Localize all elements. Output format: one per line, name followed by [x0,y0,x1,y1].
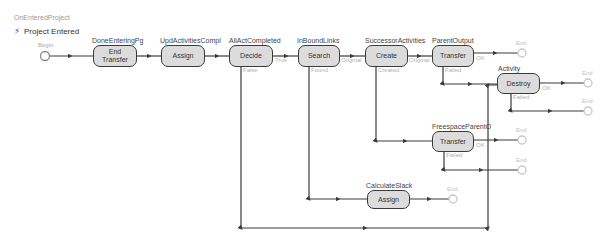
port-label-original: Original [341,57,362,63]
node-action-line1: End [109,48,121,56]
node-action: Search [308,52,330,60]
node-assign[interactable]: Assign [161,45,205,67]
node-action: Destroy [506,80,530,88]
node-destroy[interactable]: Destroy [497,73,540,94]
node-assign[interactable]: Assign [367,190,410,209]
port-label-failed: Failed [445,67,461,73]
node-action: Transfer [440,138,466,146]
node-action-line2: Transfer [102,56,128,64]
end-circle[interactable] [518,166,526,174]
node-action: Create [376,52,397,60]
end-circle[interactable] [449,195,457,203]
node-name-successor-activities: SuccessorActivities [365,37,425,44]
port-label-created: Created [378,67,399,73]
begin-circle[interactable] [41,52,50,61]
port-label-failed: Failed [446,152,462,158]
port-label-ok: OK [476,142,485,148]
node-end-transfer[interactable]: End Transfer [93,45,137,67]
node-action: Assign [172,52,193,60]
begin-label: Begin [38,42,53,48]
node-name-parent-output: ParentOutput [432,37,474,44]
end-circle[interactable] [518,136,526,144]
end-label: End [582,98,593,104]
end-label: End [516,157,527,163]
node-transfer[interactable]: Transfer [432,45,474,67]
node-search[interactable]: Search [298,45,340,67]
node-action: Assign [378,196,399,204]
node-name-activity: Activity [498,65,520,72]
end-circle[interactable] [518,49,526,57]
connector-n5-created-n8 [376,67,432,141]
node-name-inbound-links: InBoundLinks [297,37,339,44]
node-name-done-entering-pg: DoneEnteringPg [92,37,143,44]
node-name-upd-activities-compl: UpdActivitiesCompl [160,37,221,44]
end-label: End [516,40,527,46]
node-transfer[interactable]: Transfer [432,131,474,152]
node-name-freespace-parent-o: FreespaceParentO [432,123,491,130]
node-decide[interactable]: Decide [229,45,273,67]
port-label-ok: OK [476,55,485,61]
port-label-found: Found [311,67,328,73]
port-label-false: False [243,67,258,73]
port-label-failed: Failed [513,94,529,100]
port-label-true: True [275,57,287,63]
end-label: End [516,127,527,133]
node-create[interactable]: Create [365,45,408,67]
port-label-ok: OK [542,85,551,91]
node-name-all-act-completed: AllActCompleted [229,37,281,44]
port-label-original: Original [409,57,430,63]
connector-n4-found-n9 [309,67,367,199]
end-circle[interactable] [584,107,592,115]
end-label: End [447,186,458,192]
end-circle[interactable] [584,79,592,87]
end-label: End [582,70,593,76]
node-action: Decide [240,52,262,60]
node-action: Transfer [440,52,466,60]
node-name-calculate-slack: CalculateSlack [366,182,412,189]
